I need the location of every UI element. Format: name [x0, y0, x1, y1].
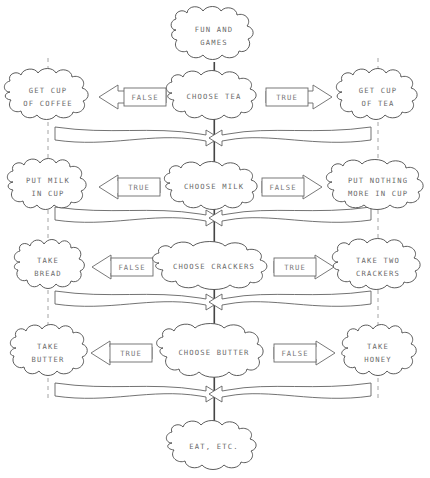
ribbon-left-milk [55, 207, 219, 226]
node-start[interactable]: FUN AND GAMES [171, 7, 253, 60]
ribbon-right-crackers [209, 291, 371, 310]
node-get-cup-of-coffee-line2: OF COFFEE [23, 99, 72, 108]
branch-arrow-left-tea[interactable]: FALSE [99, 85, 166, 109]
branch-arrow-left-crackers[interactable]: FALSE [92, 255, 153, 279]
node-choose-milk-label: CHOOSE MILK [184, 182, 244, 191]
node-get-cup-of-coffee[interactable]: GET CUP OF COFFEE [4, 69, 88, 120]
node-take-two-crackers-line2: CRACKERS [356, 269, 400, 278]
node-take-honey[interactable]: TAKE HONEY [342, 325, 417, 376]
node-choose-tea-label: CHOOSE TEA [187, 92, 242, 101]
branch-label-right-crackers: TRUE [284, 263, 306, 272]
node-get-cup-of-coffee-line1: GET CUP [29, 86, 67, 95]
node-get-cup-of-tea-line1: GET CUP [359, 86, 397, 95]
ribbon-right-butter [209, 383, 371, 402]
node-choose-tea[interactable]: CHOOSE TEA [166, 71, 256, 120]
node-take-two-crackers-line1: TAKE TWO [356, 256, 400, 265]
branch-arrow-right-butter[interactable]: FALSE [274, 341, 335, 365]
node-eat-etc[interactable]: EAT, ETC. [166, 421, 256, 470]
node-start-line1: FUN AND [195, 25, 233, 34]
node-put-nothing-more-in-cup[interactable]: PUT NOTHING MORE IN CUP [326, 160, 423, 210]
node-put-milk-in-cup[interactable]: PUT MILK IN CUP [7, 159, 86, 210]
branch-arrow-right-tea[interactable]: TRUE [266, 85, 332, 109]
node-take-butter-line2: BUTTER [32, 355, 65, 364]
flowchart-canvas: FALSE TRUE TRUE FALSE FALSE TRUE [0, 0, 430, 478]
branch-arrow-right-crackers[interactable]: TRUE [274, 255, 334, 279]
branch-label-left-milk: TRUE [128, 183, 150, 192]
node-take-butter[interactable]: TAKE BUTTER [10, 325, 87, 376]
branch-label-left-butter: TRUE [120, 349, 142, 358]
node-put-nothing-more-in-cup-line2: MORE IN CUP [348, 189, 408, 198]
branch-arrow-left-milk[interactable]: TRUE [99, 175, 160, 199]
node-take-bread[interactable]: TAKE BREAD [14, 240, 84, 289]
ribbon-right-tea [209, 127, 371, 146]
branch-label-left-tea: FALSE [131, 93, 158, 102]
node-get-cup-of-tea[interactable]: GET CUP OF TEA [336, 69, 417, 120]
node-take-honey-line2: HONEY [364, 355, 391, 364]
node-eat-etc-label: EAT, ETC. [189, 442, 238, 451]
ribbon-left-butter [55, 383, 219, 402]
node-choose-crackers[interactable]: CHOOSE CRACKERS [153, 242, 267, 290]
branch-label-right-milk: FALSE [269, 183, 296, 192]
branch-arrow-right-milk[interactable]: FALSE [262, 175, 322, 199]
node-put-nothing-more-in-cup-line1: PUT NOTHING [348, 176, 408, 185]
ribbon-left-crackers [55, 291, 219, 310]
branch-label-right-tea: TRUE [276, 93, 298, 102]
node-choose-milk[interactable]: CHOOSE MILK [164, 162, 257, 210]
branch-arrow-left-butter[interactable]: TRUE [91, 341, 152, 365]
ribbon-left-tea [55, 127, 219, 146]
ribbon-right-milk [209, 207, 371, 226]
node-take-honey-line1: TAKE [367, 342, 389, 351]
node-take-two-crackers[interactable]: TAKE TWO CRACKERS [332, 239, 420, 290]
node-get-cup-of-tea-line2: OF TEA [362, 99, 395, 108]
node-choose-butter[interactable]: CHOOSE BUTTER [157, 324, 264, 378]
node-choose-butter-label: CHOOSE BUTTER [178, 348, 249, 357]
node-take-butter-line1: TAKE [37, 342, 59, 351]
node-take-bread-line2: BREAD [34, 269, 61, 278]
node-take-bread-line1: TAKE [37, 256, 59, 265]
node-put-milk-in-cup-line2: IN CUP [32, 189, 65, 198]
flowchart-svg: FALSE TRUE TRUE FALSE FALSE TRUE [0, 0, 430, 478]
node-choose-crackers-label: CHOOSE CRACKERS [173, 262, 255, 271]
node-start-line2: GAMES [200, 38, 227, 47]
branch-label-right-butter: FALSE [281, 349, 308, 358]
branch-label-left-crackers: FALSE [118, 263, 145, 272]
node-put-milk-in-cup-line1: PUT MILK [26, 176, 70, 185]
